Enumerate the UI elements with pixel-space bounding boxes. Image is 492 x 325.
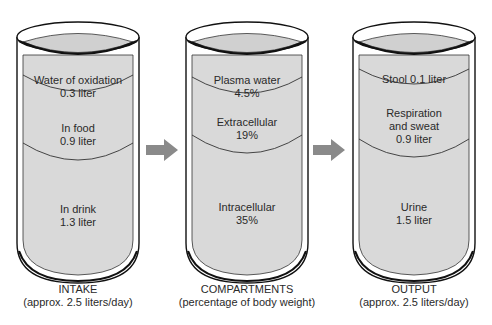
compartments-layer-1-label: Plasma water 4.5%	[186, 74, 308, 100]
compartments-layer-3-label: Urine Intracellular 35%	[186, 201, 308, 227]
intake-caption-title: INTAKE	[0, 283, 156, 296]
right-arrow-icon	[313, 139, 345, 161]
intake-cylinder	[17, 22, 139, 283]
output-cylinder	[353, 22, 475, 283]
output-caption: OUTPUT (approx. 2.5 liters/day)	[336, 283, 492, 309]
intake-layer-1-label: Water of oxidation 0.3 liter	[17, 74, 139, 100]
compartments-caption-sub: (percentage of body weight)	[167, 296, 327, 309]
intake-layer-3-label: In drink 1.3 liter	[17, 203, 139, 229]
intake-caption: INTAKE (approx. 2.5 liters/day)	[0, 283, 156, 309]
compartments-cylinder	[186, 22, 308, 283]
right-arrow-icon	[146, 139, 178, 161]
output-caption-sub: (approx. 2.5 liters/day)	[336, 296, 492, 309]
intake-caption-sub: (approx. 2.5 liters/day)	[0, 296, 156, 309]
intake-layer-2-label: In food 0.9 liter	[17, 122, 139, 148]
compartments-caption-title: COMPARTMENTS	[167, 283, 327, 296]
water-balance-diagram	[0, 0, 492, 325]
compartments-caption: COMPARTMENTS (percentage of body weight)	[167, 283, 327, 309]
output-layer-2-label: Respiration and sweat 0.9 liter	[353, 107, 475, 146]
output-caption-title: OUTPUT	[336, 283, 492, 296]
output-layer-1-label: Stool 0.1 liter	[353, 73, 475, 86]
output-layer-3-label: Urine 1.5 liter	[353, 201, 475, 227]
compartments-layer-2-label: Extracellular 19%	[186, 116, 308, 142]
